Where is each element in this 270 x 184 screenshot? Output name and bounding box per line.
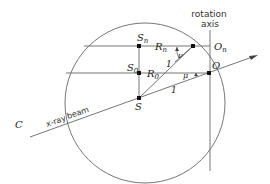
ewald-sphere-diagram: rotation axis Sn S0 S Rn R0 On O C ν μ 1… bbox=[0, 0, 270, 184]
xray-beam-label-2: beam bbox=[66, 105, 91, 121]
xray-beam-label-1: x-ray bbox=[45, 114, 68, 129]
label-o: O bbox=[212, 60, 220, 71]
label-rn: Rn bbox=[154, 41, 168, 54]
label-mu: μ bbox=[183, 71, 188, 80]
label-r0: R0 bbox=[146, 68, 160, 81]
point-o bbox=[207, 71, 211, 75]
label-c: C bbox=[15, 119, 23, 130]
label-s: S bbox=[135, 101, 142, 112]
label-one-lower: 1 bbox=[171, 85, 177, 95]
xray-beam-line bbox=[30, 56, 255, 137]
point-s bbox=[137, 96, 141, 100]
label-sn: Sn bbox=[137, 32, 149, 45]
point-rn bbox=[191, 44, 195, 48]
label-one-upper: 1 bbox=[166, 59, 172, 69]
label-on: On bbox=[214, 41, 227, 54]
point-sn bbox=[137, 44, 141, 48]
reflection-sphere bbox=[65, 23, 225, 183]
xray-beam-arrowhead bbox=[249, 55, 258, 60]
rotation-axis-label-2: axis bbox=[201, 19, 219, 29]
rotation-axis-label-1: rotation bbox=[191, 9, 226, 19]
label-nu: ν bbox=[178, 51, 183, 60]
